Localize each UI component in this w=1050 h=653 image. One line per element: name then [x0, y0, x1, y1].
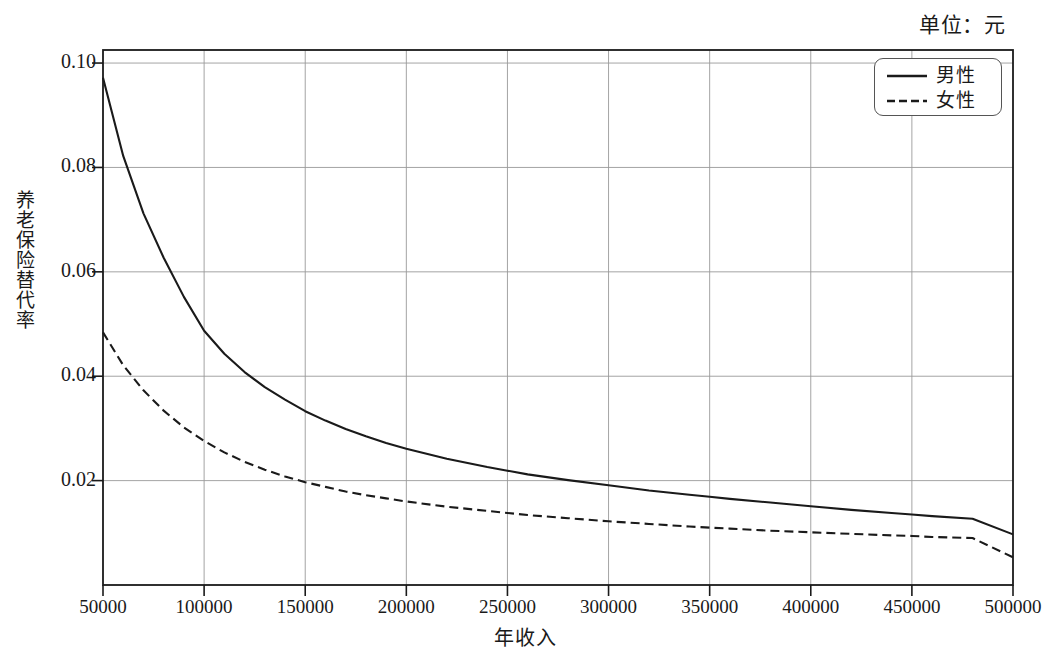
legend-label-female: 女性	[936, 91, 975, 110]
y-tick-label: 0.06	[34, 259, 96, 282]
grid-lines	[103, 50, 1013, 585]
x-tick-label: 50000	[79, 596, 127, 618]
legend: 男性 女性	[874, 58, 1002, 116]
y-tick-label: 0.08	[34, 154, 96, 177]
x-tick-label: 350000	[681, 596, 738, 618]
legend-item-female: 女性	[885, 88, 1001, 113]
x-tick-label: 250000	[479, 596, 536, 618]
y-tick-label: 0.04	[34, 363, 96, 386]
x-tick-label: 300000	[580, 596, 637, 618]
y-tick-label: 0.02	[34, 468, 96, 491]
x-tick-label: 500000	[985, 596, 1042, 618]
y-tick-label: 0.10	[34, 50, 96, 73]
legend-label-male: 男性	[936, 66, 975, 85]
series-line-male	[103, 78, 1013, 535]
x-tick-label: 100000	[176, 596, 233, 618]
legend-swatch-solid	[885, 69, 929, 83]
chart-figure: 单位：元 养老保险替代率 年收入 0.020.040.060.080.10 50…	[0, 0, 1050, 653]
legend-swatch-dashed	[885, 94, 929, 108]
legend-item-male: 男性	[885, 63, 1001, 88]
x-tick-label: 450000	[883, 596, 940, 618]
plot-frame	[103, 50, 1013, 585]
x-tick-label: 200000	[378, 596, 435, 618]
x-tick-label: 150000	[277, 596, 334, 618]
x-tick-label: 400000	[782, 596, 839, 618]
